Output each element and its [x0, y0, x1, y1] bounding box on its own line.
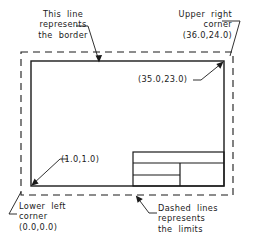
limits-rectangle: [21, 52, 233, 195]
annotation-upper-right-corner: Upper right corner (36.0,24.0): [150, 9, 232, 40]
leader-dashed-note: [136, 195, 157, 213]
arrowhead-dashed-note: [136, 195, 143, 202]
annotation-dashed-lines-note: Dashed lines represents the limits: [158, 203, 248, 234]
annotation-lower-left-corner: Lower left corner (0.0,0.0): [19, 201, 89, 232]
title-block-outline: [133, 152, 224, 186]
diagram-canvas: This line represents the border Upper ri…: [0, 0, 254, 245]
annotation-border-lower-left-coordinate: (1.0,1.0): [61, 154, 121, 164]
annotation-border-note: This line represents the border: [26, 9, 100, 40]
title-block: [133, 152, 224, 186]
arrowhead-inner-upper-right: [216, 62, 223, 69]
annotation-border-upper-right-coordinate: (35.0,23.0): [138, 74, 200, 84]
